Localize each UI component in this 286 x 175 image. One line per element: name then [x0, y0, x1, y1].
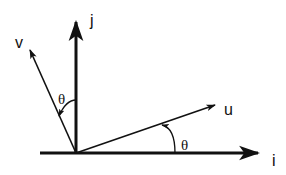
label-theta-v: θ	[58, 91, 65, 107]
rotation-diagram: j v u i θ θ	[0, 0, 286, 175]
theta-u-arc	[162, 125, 175, 153]
diagram-svg: j v u i θ θ	[0, 0, 286, 175]
label-theta-u: θ	[181, 137, 188, 153]
label-u: u	[224, 101, 233, 118]
u-vector-line	[76, 105, 215, 153]
label-j: j	[89, 12, 94, 29]
label-i: i	[272, 152, 276, 169]
label-v: v	[15, 34, 23, 51]
